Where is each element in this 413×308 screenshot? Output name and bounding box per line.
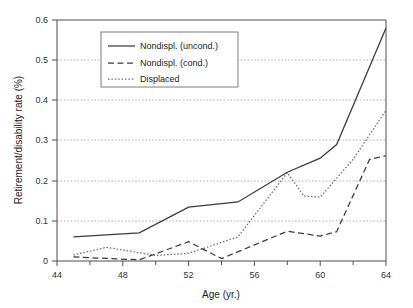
y-tick-label-0.3: 0.3: [35, 135, 48, 145]
x-tick-label-60: 60: [315, 270, 325, 280]
legend-label-nondispl-cond: Nondispl. (cond.): [140, 58, 208, 68]
y-tick-labels: 0.6 0.5 0.4 0.3 0.2 0.1 0: [35, 15, 48, 266]
x-tick-labels: 44 48 52 56 60 64: [52, 270, 391, 280]
legend-label-nondispl-uncond: Nondispl. (uncond.): [140, 41, 218, 51]
y-tick-label-0.4: 0.4: [35, 95, 48, 105]
y-tick-label-0.2: 0.2: [35, 176, 48, 186]
line-chart: 0.6 0.5 0.4 0.3 0.2 0.1 0 44 48 52: [0, 0, 413, 308]
y-tick-label-0.6: 0.6: [35, 15, 48, 25]
y-tick-label-0.1: 0.1: [35, 216, 48, 226]
x-tickmarks: [57, 261, 386, 266]
x-tick-label-52: 52: [184, 270, 194, 280]
y-axis-title: Retirement/disability rate (%): [13, 76, 24, 204]
y-tick-label-0: 0: [43, 256, 48, 266]
chart-legend: Nondispl. (uncond.) Nondispl. (cond.) Di…: [101, 32, 238, 87]
y-tick-label-0.5: 0.5: [35, 55, 48, 65]
x-tick-label-48: 48: [118, 270, 128, 280]
x-tick-label-56: 56: [249, 270, 259, 280]
x-tick-label-64: 64: [381, 270, 391, 280]
y-tickmarks: [52, 20, 57, 261]
chart-figure: 0.6 0.5 0.4 0.3 0.2 0.1 0 44 48 52: [0, 0, 413, 308]
x-axis-title: Age (yr.): [202, 289, 240, 300]
x-tick-label-44: 44: [52, 270, 62, 280]
legend-label-displaced: Displaced: [140, 74, 180, 84]
